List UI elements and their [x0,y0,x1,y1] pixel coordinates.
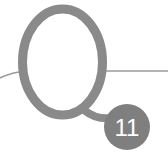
question-number: 11 [115,114,140,141]
left-rule-line [0,72,19,78]
question-11-marker: 11 [0,0,168,156]
q-letter-ring [23,9,103,115]
